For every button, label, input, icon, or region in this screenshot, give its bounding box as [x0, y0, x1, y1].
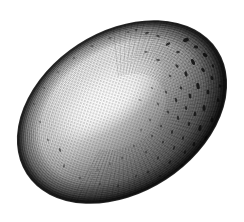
egg-illustration-svg: [0, 0, 244, 222]
egg-illustration: [0, 0, 244, 222]
